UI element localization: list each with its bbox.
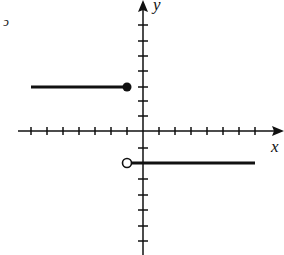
closed-endpoint-dot <box>123 83 132 92</box>
x-axis-label: x <box>270 137 279 156</box>
stray-mark: ↄ <box>3 14 9 29</box>
step-function-graph: x y ↄ <box>0 0 284 255</box>
open-endpoint-circle <box>123 159 132 168</box>
y-axis-label: y <box>151 0 161 14</box>
